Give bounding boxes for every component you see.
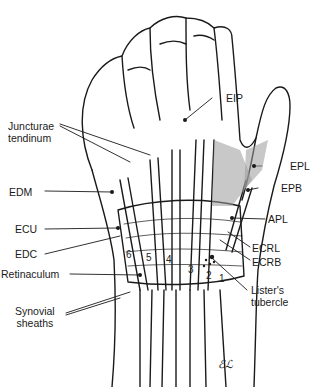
label-apl: APL — [268, 213, 288, 225]
label-synovial-sheaths: Synovialsheaths — [15, 305, 55, 329]
compartment-6: 6 — [126, 249, 132, 260]
compartment-2: 2 — [206, 270, 212, 281]
label-retinaculum: Retinaculum — [1, 268, 59, 280]
label-edc: EDC — [15, 248, 37, 260]
compartment-5: 5 — [146, 252, 152, 263]
compartment-3: 3 — [188, 264, 194, 275]
label-epl: EPL — [290, 160, 310, 172]
compartment-4: 4 — [166, 254, 172, 265]
label-juncturae-tendinum: Juncturaetendinum — [8, 120, 54, 144]
label-listers-tubercle: Lister'stubercle — [251, 284, 288, 308]
label-eip: EIP — [226, 92, 243, 104]
anatomy-figure: Juncturaetendinum EIP EDM ECU EDC Retina… — [0, 0, 318, 387]
label-edm: EDM — [9, 186, 32, 198]
label-ecrb: ECRB — [252, 256, 281, 268]
label-epb: EPB — [281, 182, 302, 194]
label-ecrl: ECRL — [252, 242, 280, 254]
label-ecu: ECU — [15, 223, 37, 235]
compartment-1: 1 — [219, 273, 225, 284]
artist-signature: ℰℒ — [218, 358, 233, 371]
